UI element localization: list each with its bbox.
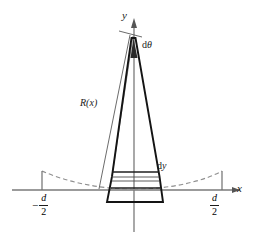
fraction-numerator: d xyxy=(39,193,48,204)
fraction-stack: d 2 xyxy=(210,193,219,217)
figure-container: y x dθ R(x) dy − d 2 d 2 xyxy=(0,0,255,246)
tick-label-negative-half-d: − d 2 xyxy=(32,193,48,217)
minus-sign: − xyxy=(32,199,38,211)
x-axis-label: x xyxy=(237,183,242,194)
radius-label: R(x) xyxy=(80,98,97,108)
y-axis-arrowhead xyxy=(131,18,137,28)
dy-variable: y xyxy=(162,160,166,171)
tick-label-positive-half-d: d 2 xyxy=(210,193,219,217)
thin-apex-tick-line xyxy=(119,31,142,37)
fraction-stack: d 2 xyxy=(39,193,48,217)
y-axis-label: y xyxy=(122,10,127,21)
d-theta-label: dθ xyxy=(142,40,152,50)
fraction-numerator: d xyxy=(210,193,219,204)
fraction-denominator: 2 xyxy=(39,207,48,218)
d-theta-variable: θ xyxy=(147,39,152,50)
dy-label: dy xyxy=(157,161,166,171)
fraction-denominator: 2 xyxy=(210,207,219,218)
